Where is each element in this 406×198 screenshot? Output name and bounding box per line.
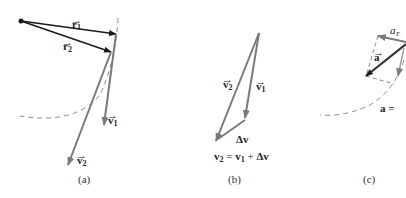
component-rectangle-dashed <box>366 36 394 84</box>
arrow-accent: → <box>255 75 266 87</box>
label-aT: aT <box>390 24 401 38</box>
kinematics-diagram: r1 → r2 → v1 → v2 → (a) v2 → v1 → Δv v2 … <box>0 0 406 198</box>
vector-v2 <box>68 52 111 165</box>
arrow-accent: → <box>222 73 233 85</box>
caption-b: (b) <box>228 173 241 186</box>
arrow-accent: → <box>76 149 87 161</box>
label-delta-v: Δv <box>236 133 249 145</box>
panel-b: v2 → v1 → Δv v2 = v1 + Δv (b) <box>214 33 269 186</box>
caption-a: (a) <box>78 173 91 186</box>
vector-r1 <box>21 21 116 34</box>
arrow-accent: → <box>71 14 82 26</box>
equation-b: v2 = v1 + Δv <box>214 150 269 164</box>
arrow-accent: → <box>62 36 73 48</box>
arrow-accent: → <box>107 109 118 121</box>
panel-c: aT a → a = (c) <box>320 24 406 186</box>
vector-aT <box>378 36 406 42</box>
caption-c: (c) <box>363 173 376 186</box>
panel-a: r1 → r2 → v1 → v2 → (a) <box>19 14 119 186</box>
label-a-eq: a = <box>380 102 395 114</box>
arrow-accent: → <box>373 46 384 58</box>
